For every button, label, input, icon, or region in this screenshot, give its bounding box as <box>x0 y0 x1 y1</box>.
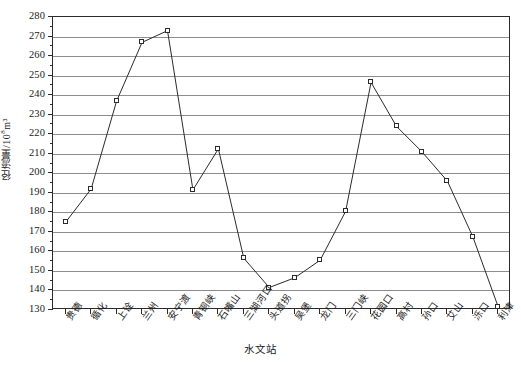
y-axis-tick-label: 280 <box>19 10 45 21</box>
y-axis-tick-label: 150 <box>19 264 45 275</box>
y-axis-title-exponent: 8 <box>0 130 7 134</box>
data-point-marker <box>114 98 119 103</box>
data-point-marker <box>190 187 195 192</box>
y-axis-tick-label: 190 <box>19 186 45 197</box>
y-axis-tick-label: 230 <box>19 108 45 119</box>
data-point-marker <box>470 234 475 239</box>
data-point-marker <box>292 275 297 280</box>
data-point-marker <box>215 146 220 151</box>
y-axis-title-unit: m³ <box>1 118 12 130</box>
data-point-marker <box>63 219 68 224</box>
y-axis-tick-label: 250 <box>19 69 45 80</box>
y-axis-tick-label: 270 <box>19 30 45 41</box>
series-line <box>53 17 511 310</box>
y-axis-tick-label: 170 <box>19 225 45 236</box>
data-point-marker <box>165 28 170 33</box>
runoff-line-chart: 径流量/108m³ 130140150160170180190200210220… <box>0 0 521 366</box>
y-axis-tick-label: 140 <box>19 283 45 294</box>
data-point-marker <box>343 208 348 213</box>
y-axis-tick-label: 200 <box>19 166 45 177</box>
data-point-marker <box>419 149 424 154</box>
y-axis-tick-label: 220 <box>19 127 45 138</box>
y-axis-tick-label: 210 <box>19 147 45 158</box>
data-point-marker <box>139 39 144 44</box>
y-axis-tick-label: 160 <box>19 244 45 255</box>
y-axis-tick-label: 180 <box>19 205 45 216</box>
data-point-marker <box>317 257 322 262</box>
series-polyline <box>66 31 499 307</box>
y-axis-tick-label: 130 <box>19 303 45 314</box>
data-point-marker <box>88 186 93 191</box>
data-point-marker <box>444 178 449 183</box>
x-axis-title: 水文站 <box>0 341 521 356</box>
y-axis-title-text: 径流量/10 <box>1 134 12 180</box>
plot-area <box>52 16 510 309</box>
y-axis-tick-label: 260 <box>19 49 45 60</box>
data-point-marker <box>368 79 373 84</box>
data-point-marker <box>241 255 246 260</box>
y-axis-title: 径流量/108m³ <box>0 118 12 180</box>
data-point-marker <box>394 123 399 128</box>
y-axis-tick-label: 240 <box>19 88 45 99</box>
